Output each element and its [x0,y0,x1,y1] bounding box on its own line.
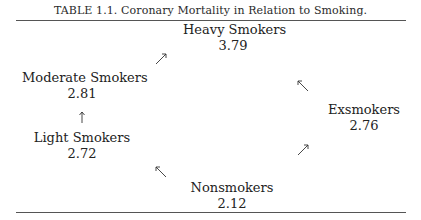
node-value: 2.72 [32,146,132,162]
node-label: Heavy Smokers [183,22,283,38]
node-label: Exsmokers [324,102,404,118]
node-light-smokers: Light Smokers 2.72 [32,130,132,162]
arrow-up-right-icon [153,51,169,67]
table-caption: TABLE 1.1. Coronary Mortality in Relatio… [0,4,421,17]
node-value: 2.76 [324,118,404,134]
arrow-up-icon [74,109,90,125]
node-moderate-smokers: Moderate Smokers 2.81 [22,70,142,102]
node-nonsmokers: Nonsmokers 2.12 [187,180,277,212]
arrow-light-to-moderate [74,109,90,125]
node-label: Moderate Smokers [22,70,142,86]
arrow-up-right-icon [295,142,311,158]
node-value: 2.81 [22,86,142,102]
node-exsmokers: Exsmokers 2.76 [324,102,404,134]
node-value: 3.79 [183,38,283,54]
node-label: Light Smokers [32,130,132,146]
arrow-moderate-to-heavy [153,51,169,67]
top-rule [16,20,406,21]
arrow-non-to-light [153,164,169,180]
arrow-up-left-icon [153,164,169,180]
bottom-rule [16,212,406,213]
node-heavy-smokers: Heavy Smokers 3.79 [183,22,283,54]
node-label: Nonsmokers [187,180,277,196]
arrow-ex-to-heavy [295,78,311,94]
node-value: 2.12 [187,196,277,212]
arrow-up-left-icon [295,78,311,94]
arrow-non-to-ex [295,142,311,158]
